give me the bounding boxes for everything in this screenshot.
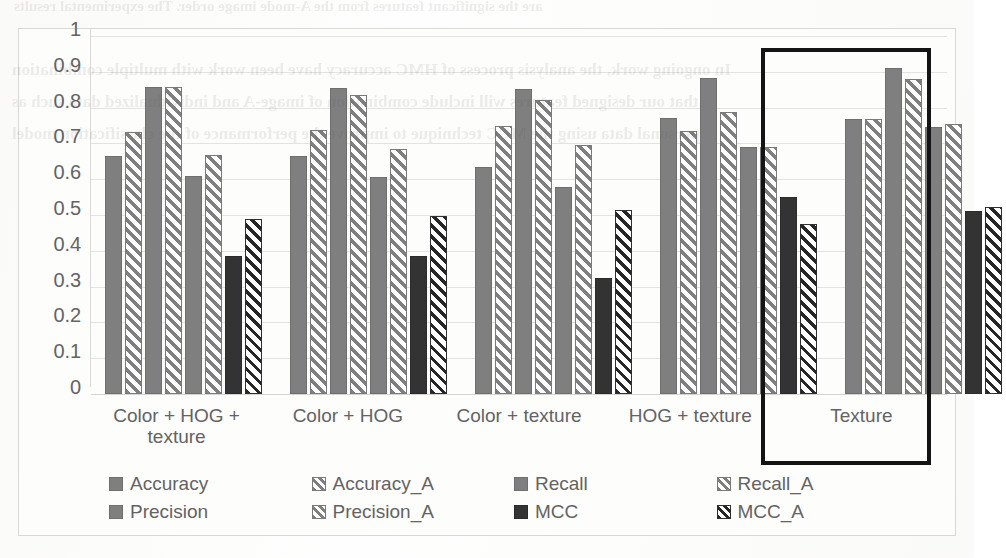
bar[interactable] (865, 119, 882, 394)
x-axis-category-label: Texture (776, 401, 947, 469)
legend-item[interactable]: Precision (109, 501, 312, 523)
x-axis-category-label: HOG + texture (605, 401, 776, 469)
bar[interactable] (125, 132, 142, 394)
legend-label: Recall (535, 473, 588, 495)
bar[interactable] (145, 87, 162, 394)
bar[interactable] (495, 126, 512, 395)
bar[interactable] (535, 100, 552, 394)
legend-item[interactable]: Recall (514, 473, 717, 495)
legend-label: Recall_A (738, 473, 814, 495)
bar-group (276, 36, 461, 394)
bar[interactable] (740, 147, 757, 394)
x-axis-category-label: Color + texture (433, 401, 604, 469)
bar[interactable] (185, 176, 202, 394)
y-axis-tick-label: 0.4 (53, 234, 81, 254)
bar[interactable] (595, 278, 612, 394)
legend-item[interactable]: MCC (514, 501, 717, 523)
bar[interactable] (905, 79, 922, 394)
bar[interactable] (105, 156, 122, 394)
bar-chart-figure: 00.10.20.30.40.50.60.70.80.91 Color + HO… (18, 28, 956, 536)
legend-label: Precision_A (333, 501, 434, 523)
bar[interactable] (430, 216, 447, 394)
legend-item[interactable]: MCC_A (717, 501, 920, 523)
x-axis-category-labels: Color + HOG + textureColor + HOGColor + … (91, 401, 947, 469)
y-axis-tick-label: 0.8 (53, 91, 81, 111)
bar[interactable] (475, 167, 492, 394)
legend-label: Accuracy (130, 473, 208, 495)
bar[interactable] (925, 127, 942, 394)
legend-swatch-icon (312, 477, 326, 491)
legend-swatch-icon (109, 477, 123, 491)
y-axis-tick-label: 0 (70, 377, 81, 397)
bar[interactable] (410, 256, 427, 394)
legend-label: MCC_A (738, 501, 805, 523)
bar[interactable] (660, 118, 677, 394)
bar[interactable] (515, 89, 532, 394)
bleed-line-1: are the significant features from the A-… (14, 0, 543, 15)
bar[interactable] (310, 130, 327, 394)
bar[interactable] (700, 78, 717, 394)
bar-group (461, 36, 646, 394)
legend-swatch-icon (717, 477, 731, 491)
legend-swatch-icon (109, 505, 123, 519)
bar[interactable] (575, 145, 592, 394)
bar[interactable] (370, 177, 387, 394)
y-axis-tick-label: 0.2 (53, 305, 81, 325)
y-axis-tick-label: 1 (70, 19, 81, 39)
bar[interactable] (760, 147, 777, 394)
legend-swatch-icon (312, 505, 326, 519)
legend-label: Precision (130, 501, 208, 523)
bar[interactable] (390, 149, 407, 394)
bar[interactable] (985, 207, 1002, 394)
bar[interactable] (965, 211, 982, 394)
bar[interactable] (885, 68, 902, 394)
chart-legend: AccuracyAccuracy_ARecallRecall_APrecisio… (109, 473, 919, 523)
bar-group (646, 36, 831, 394)
x-axis-category-label: Color + HOG + texture (91, 401, 262, 469)
bar[interactable] (615, 210, 632, 394)
bar[interactable] (720, 112, 737, 394)
y-axis-tick-label: 0.7 (53, 126, 81, 146)
bar[interactable] (225, 256, 242, 394)
x-axis-category-label: Color + HOG (262, 401, 433, 469)
y-axis-tick-label: 0.6 (53, 162, 81, 182)
legend-item[interactable]: Accuracy_A (312, 473, 515, 495)
bar[interactable] (245, 219, 262, 394)
y-axis-tick-label: 0.9 (53, 55, 81, 75)
bar[interactable] (290, 156, 307, 394)
legend-label: MCC (535, 501, 578, 523)
bar-group (91, 36, 276, 394)
y-axis-tick-label: 0.5 (53, 198, 81, 218)
bar[interactable] (350, 95, 367, 394)
legend-item[interactable]: Precision_A (312, 501, 515, 523)
bar[interactable] (800, 224, 817, 394)
plot-area (91, 36, 947, 394)
legend-swatch-icon (514, 505, 528, 519)
y-axis-tick-label: 0.3 (53, 270, 81, 290)
bar[interactable] (680, 131, 697, 394)
y-axis-tick-label: 0.1 (53, 341, 81, 361)
bar[interactable] (205, 155, 222, 394)
legend-item[interactable]: Recall_A (717, 473, 920, 495)
bar-groups (91, 36, 947, 394)
bar[interactable] (165, 87, 182, 394)
bar[interactable] (845, 119, 862, 394)
legend-label: Accuracy_A (333, 473, 434, 495)
gridline (91, 394, 947, 395)
y-axis: 00.10.20.30.40.50.60.70.80.91 (19, 29, 89, 401)
bar[interactable] (330, 88, 347, 394)
bar[interactable] (780, 197, 797, 394)
bar[interactable] (945, 124, 962, 394)
bar-group (831, 36, 1006, 394)
legend-item[interactable]: Accuracy (109, 473, 312, 495)
legend-swatch-icon (717, 505, 731, 519)
bar[interactable] (555, 187, 572, 394)
legend-swatch-icon (514, 477, 528, 491)
